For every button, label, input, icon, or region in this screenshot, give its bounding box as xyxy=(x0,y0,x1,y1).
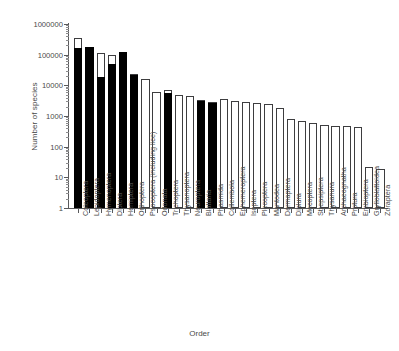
x-axis-tick xyxy=(246,208,247,213)
x-axis-tick xyxy=(78,208,79,213)
y-axis-minor-tick xyxy=(66,76,69,77)
y-axis-minor-tick xyxy=(66,67,69,68)
y-axis-minor-tick xyxy=(66,101,69,102)
y-axis-minor-tick xyxy=(66,64,69,65)
y-axis-minor-tick xyxy=(66,117,69,118)
x-axis-tick xyxy=(213,208,214,213)
y-axis-minor-tick xyxy=(66,153,69,154)
y-axis-minor-tick xyxy=(66,150,69,151)
x-axis-tick xyxy=(134,208,135,213)
x-axis-tick-label: Zoraptera xyxy=(383,185,392,216)
y-axis-minor-tick xyxy=(66,121,69,122)
y-axis-minor-tick xyxy=(66,61,69,62)
y-axis-minor-tick xyxy=(66,119,69,120)
y-axis-minor-tick xyxy=(66,36,69,37)
x-axis-tick xyxy=(347,208,348,213)
y-axis-minor-tick xyxy=(66,95,69,96)
x-axis-tick xyxy=(324,208,325,213)
y-axis-minor-tick xyxy=(66,27,69,28)
x-axis-tick xyxy=(369,208,370,213)
y-axis-minor-tick xyxy=(66,182,69,183)
x-axis-tick xyxy=(313,208,314,213)
chart-figure: Number of species 1000000100000100001000… xyxy=(0,0,399,351)
y-axis-minor-tick xyxy=(66,56,69,57)
y-axis-tick-label: 100000 xyxy=(38,50,63,59)
x-axis-tick-label: Psocoptera (including lice) xyxy=(148,132,157,216)
x-axis-tick xyxy=(112,208,113,213)
y-axis-minor-tick xyxy=(66,163,69,164)
x-axis-tick xyxy=(291,208,292,213)
y-axis-minor-tick xyxy=(66,132,69,133)
y-axis-minor-tick xyxy=(66,193,69,194)
x-axis-tick xyxy=(145,208,146,213)
y-axis-minor-tick xyxy=(66,123,69,124)
y-axis-minor-tick xyxy=(66,190,69,191)
y-axis-minor-tick xyxy=(66,156,69,157)
y-axis-minor-tick xyxy=(66,179,69,180)
y-axis-minor-tick xyxy=(66,128,69,129)
x-axis-tick xyxy=(224,208,225,213)
x-axis-tick xyxy=(190,208,191,213)
x-axis-tick xyxy=(302,208,303,213)
x-axis-tick xyxy=(380,208,381,213)
x-axis-tick xyxy=(157,208,158,213)
x-axis-tick xyxy=(257,208,258,213)
x-axis-tick xyxy=(123,208,124,213)
y-axis-minor-tick xyxy=(66,90,69,91)
y-axis-tick-label: 10 xyxy=(55,173,63,182)
y-axis-minor-tick xyxy=(66,187,69,188)
y-axis-minor-tick xyxy=(66,151,69,152)
y-axis-title: Number of species xyxy=(30,37,39,197)
x-axis-tick xyxy=(179,208,180,213)
y-axis-tick-label: 1000 xyxy=(46,112,63,121)
x-axis-tick xyxy=(168,208,169,213)
y-axis-minor-tick xyxy=(66,71,69,72)
y-axis-minor-tick xyxy=(66,199,69,200)
y-axis-tick xyxy=(64,208,69,209)
x-axis-tick xyxy=(269,208,270,213)
y-axis-minor-tick xyxy=(66,159,69,160)
y-axis-tick-label: 1 xyxy=(59,204,63,213)
y-axis-minor-tick xyxy=(66,137,69,138)
x-axis-tick xyxy=(235,208,236,213)
y-axis-tick-label: 10000 xyxy=(42,81,63,90)
x-axis-tick xyxy=(358,208,359,213)
y-axis-minor-tick xyxy=(66,184,69,185)
y-axis-minor-tick xyxy=(66,107,69,108)
y-axis-tick-label: 1000000 xyxy=(33,20,63,29)
y-axis-minor-tick xyxy=(66,58,69,59)
y-axis-minor-tick xyxy=(66,168,69,169)
y-axis-minor-tick xyxy=(66,29,69,30)
y-axis-minor-tick xyxy=(66,45,69,46)
y-axis-minor-tick xyxy=(66,98,69,99)
x-axis-tick xyxy=(89,208,90,213)
y-axis-minor-tick xyxy=(66,31,69,32)
y-axis-minor-tick xyxy=(66,33,69,34)
y-axis-minor-tick xyxy=(66,25,69,26)
y-axis-minor-tick xyxy=(66,92,69,93)
y-axis-minor-tick xyxy=(66,148,69,149)
y-axis-minor-tick xyxy=(66,125,69,126)
y-axis-minor-tick xyxy=(66,87,69,88)
y-axis-minor-tick xyxy=(66,40,69,41)
x-axis-tick xyxy=(280,208,281,213)
y-axis-minor-tick xyxy=(66,88,69,89)
x-axis-tick xyxy=(336,208,337,213)
x-axis-tick xyxy=(101,208,102,213)
y-axis-tick-label: 100 xyxy=(50,142,63,151)
y-axis-minor-tick xyxy=(66,180,69,181)
x-axis-tick xyxy=(201,208,202,213)
y-axis-minor-tick xyxy=(66,59,69,60)
x-axis-title: Order xyxy=(0,329,399,338)
